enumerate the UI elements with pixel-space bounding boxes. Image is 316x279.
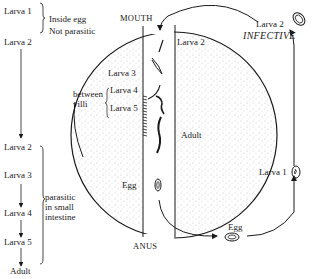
stage-larva2-parasitic-label: Larva 2 (4, 142, 32, 152)
larva2-infective-label: Larva 2 (256, 19, 284, 29)
larva2-infective-egg-icon (291, 10, 308, 27)
lumen-larva4-label: Larva 4 (110, 85, 138, 95)
larva1-outside-label: Larva 1 (259, 167, 287, 177)
between-label: between (73, 89, 103, 99)
stage-adult-label: Adult (10, 266, 31, 276)
anus-label: ANUS (133, 241, 157, 251)
parasitic-label: parasitic (45, 192, 76, 202)
lumen-larva2-label: Larva 2 (177, 37, 205, 47)
mouth-label: MOUTH (120, 13, 153, 23)
inside-egg-label: Inside egg (49, 14, 86, 24)
stage-larva1-label: Larva 1 (4, 6, 32, 16)
intestine-label: intestine (45, 212, 76, 222)
intestine-cross-section (71, 20, 281, 270)
lumen-larva3-label: Larva 3 (108, 68, 136, 78)
infective-label: INFECTIVE (243, 31, 296, 41)
egg-outside-icon (225, 233, 239, 241)
adult-worm-label: Adult (181, 130, 202, 140)
top-bracket (40, 3, 45, 33)
egg-in-lumen-label: Egg (122, 180, 137, 190)
stage-larva2-label: Larva 2 (4, 37, 32, 47)
villi-label: villi (73, 99, 88, 109)
stage-larva4-label: Larva 4 (4, 208, 32, 218)
lumen-larva5-label: Larva 5 (110, 103, 138, 113)
life-cycle-diagram (0, 0, 316, 279)
in-small-label: in small (45, 202, 74, 212)
stage-larva3-label: Larva 3 (4, 170, 32, 180)
egg-outside-label: Egg (228, 222, 243, 232)
stage-larva5-label: Larva 5 (4, 237, 32, 247)
not-parasitic-label: Not parasitic (49, 26, 95, 36)
larva1-to-larva2-arrow (290, 30, 294, 166)
